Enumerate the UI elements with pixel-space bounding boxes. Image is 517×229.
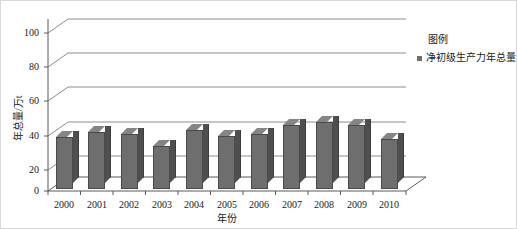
bar-2009 xyxy=(348,125,365,189)
bar-2000 xyxy=(56,137,73,189)
bar-side-face xyxy=(105,126,111,183)
bar-front-face xyxy=(283,125,300,189)
bar-2001 xyxy=(88,132,105,189)
ytick-label-80: 80 xyxy=(15,62,39,72)
legend-item-npp: 净初级生产力年总量 xyxy=(417,52,516,64)
bar-2010 xyxy=(381,139,398,189)
y-axis-title: 年总量/万t xyxy=(13,95,24,141)
legend-title: 图例 xyxy=(417,34,516,46)
legend: 图例 净初级生产力年总量 xyxy=(417,34,516,64)
bar-front-face xyxy=(251,134,268,189)
bar-2006 xyxy=(251,134,268,189)
bar-2005 xyxy=(218,136,235,189)
bar-front-face xyxy=(218,136,235,189)
bar-2004 xyxy=(186,130,203,189)
bar-side-face xyxy=(333,116,339,183)
bar-side-face xyxy=(398,133,404,183)
bar-side-face xyxy=(365,119,371,183)
bar-front-face xyxy=(56,137,73,189)
bar-front-face xyxy=(316,122,333,189)
x-axis-title: 年份 xyxy=(207,213,247,224)
legend-swatch-icon xyxy=(417,56,422,61)
bar-2008 xyxy=(316,122,333,189)
bar-side-face xyxy=(235,130,241,183)
chart-figure: 0 20 40 60 80 100 年总量/万t xyxy=(0,0,517,229)
bar-front-face xyxy=(348,125,365,189)
bar-side-face xyxy=(73,131,79,183)
bar-front-face xyxy=(153,146,170,189)
bar-2007 xyxy=(283,125,300,189)
bar-side-face xyxy=(170,140,176,183)
xtick-label-2010: 2010 xyxy=(369,200,409,210)
ytick-label-20: 20 xyxy=(15,165,39,175)
bar-front-face xyxy=(186,130,203,189)
bar-2002 xyxy=(121,134,138,189)
bar-side-face xyxy=(300,119,306,183)
bar-front-face xyxy=(121,134,138,189)
ytick-label-0: 0 xyxy=(15,186,39,196)
legend-item-label: 净初级生产力年总量 xyxy=(426,52,516,64)
bar-side-face xyxy=(203,124,209,183)
ytick-label-100: 100 xyxy=(15,28,39,38)
bar-front-face xyxy=(88,132,105,189)
bar-front-face xyxy=(381,139,398,189)
bar-side-face xyxy=(138,128,144,183)
bar-side-face xyxy=(268,128,274,183)
bar-2003 xyxy=(153,146,170,189)
